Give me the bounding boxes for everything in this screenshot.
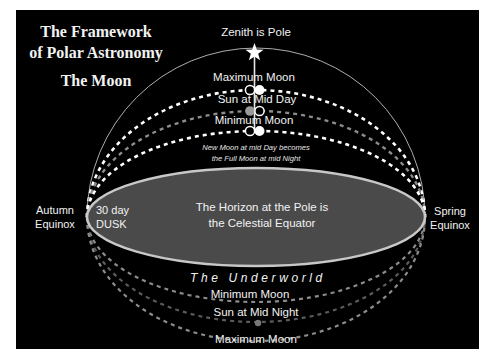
dusk-label-line-1: 30 day — [96, 204, 130, 216]
sun-icon-mid-night — [255, 320, 261, 326]
subtitle: The Moon — [61, 72, 132, 89]
new-moon-icon-min — [245, 126, 254, 135]
spring-label-line-1: Spring — [434, 205, 466, 217]
autumn-label-line-1: Autumn — [36, 204, 74, 216]
spring-label-line-2: Equinox — [430, 219, 470, 231]
dusk-label-line-2: DUSK — [96, 218, 127, 230]
sun-mid-day-label: Sun at Mid Day — [218, 93, 297, 105]
minimum-moon-upper-label: Minimum Moon — [215, 114, 294, 126]
autumn-label-line-2: Equinox — [35, 218, 75, 230]
underworld-label: The Underworld — [190, 271, 326, 285]
horizon-label-line-1: The Horizon at the Pole is — [196, 201, 329, 213]
title-line-1: The Framework — [40, 23, 152, 40]
note-line-1: New Moon at mid Day becomes — [202, 143, 310, 152]
title-line-2: of Polar Astronomy — [29, 44, 163, 62]
note-line-2: the Full Moon at mid Night — [212, 154, 302, 163]
maximum-moon-lower-label: Maximum Moon — [215, 333, 297, 345]
sun-mid-night-label: Sun at Mid Night — [213, 306, 299, 318]
polar-astronomy-diagram: The Framework of Polar Astronomy The Moo… — [0, 0, 490, 360]
maximum-moon-upper-label: Maximum Moon — [213, 71, 295, 83]
full-moon-icon-min — [255, 126, 265, 136]
zenith-label: Zenith is Pole — [221, 26, 291, 38]
horizon-label-line-2: the Celestial Equator — [209, 217, 316, 229]
minimum-moon-lower-label: Minimum Moon — [211, 288, 290, 300]
